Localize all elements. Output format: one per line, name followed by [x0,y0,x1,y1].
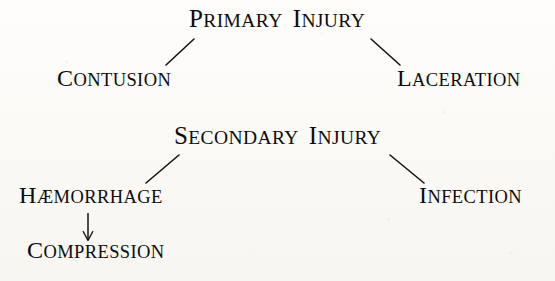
node-secondary-injury-rest2: NJURY [318,127,382,148]
injury-classification-diagram: PRIMARYINJURY CONTUSION LACERATION SECON… [0,0,555,281]
node-secondary-injury: SECONDARYINJURY [174,123,381,148]
node-laceration-initial: L [397,65,412,91]
node-secondary-injury-initial2: I [309,122,318,149]
connector-secondary-to-infection [390,155,424,183]
node-haemorrhage: HÆMORRHAGE [19,183,163,207]
node-infection-rest: NFECTION [427,187,522,207]
node-contusion-initial: C [57,65,73,91]
connector-primary-to-laceration [371,39,400,65]
node-laceration: LACERATION [397,66,521,90]
node-haemorrhage-rest: ÆMORRHAGE [37,187,163,207]
arrow-haemorrhage-to-compression [83,213,93,241]
node-primary-injury-rest2: NJURY [301,10,365,31]
connector-secondary-to-haemorrhage [146,155,179,183]
node-compression: COMPRESSION [27,238,165,262]
node-primary-injury-initial: P [189,5,203,32]
node-primary-injury: PRIMARYINJURY [189,6,365,31]
connector-primary-to-contusion [166,39,194,65]
node-secondary-injury-rest: ECONDARY [188,127,298,148]
node-compression-initial: C [27,237,43,263]
node-infection: INFECTION [419,183,522,207]
node-secondary-injury-initial: S [174,122,188,149]
node-laceration-rest: ACERATION [412,70,520,90]
node-compression-rest: OMPRESSION [43,242,164,262]
node-contusion-rest: ONTUSION [73,70,171,90]
node-haemorrhage-initial: H [19,182,37,208]
node-contusion: CONTUSION [57,66,171,90]
node-primary-injury-rest: RIMARY [203,10,282,31]
